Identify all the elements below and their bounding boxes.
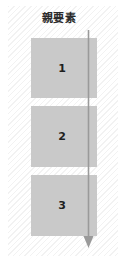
child-box-1-label: 1 — [58, 63, 66, 74]
child-box-3-label: 3 — [58, 200, 66, 211]
diagram-stage: 親要素 1 2 3 — [0, 0, 126, 264]
child-box-1: 1 — [31, 38, 97, 98]
child-box-2: 2 — [31, 106, 97, 167]
child-box-3: 3 — [31, 175, 97, 236]
child-box-2-label: 2 — [58, 131, 66, 142]
parent-element-label: 親要素 — [0, 12, 126, 26]
